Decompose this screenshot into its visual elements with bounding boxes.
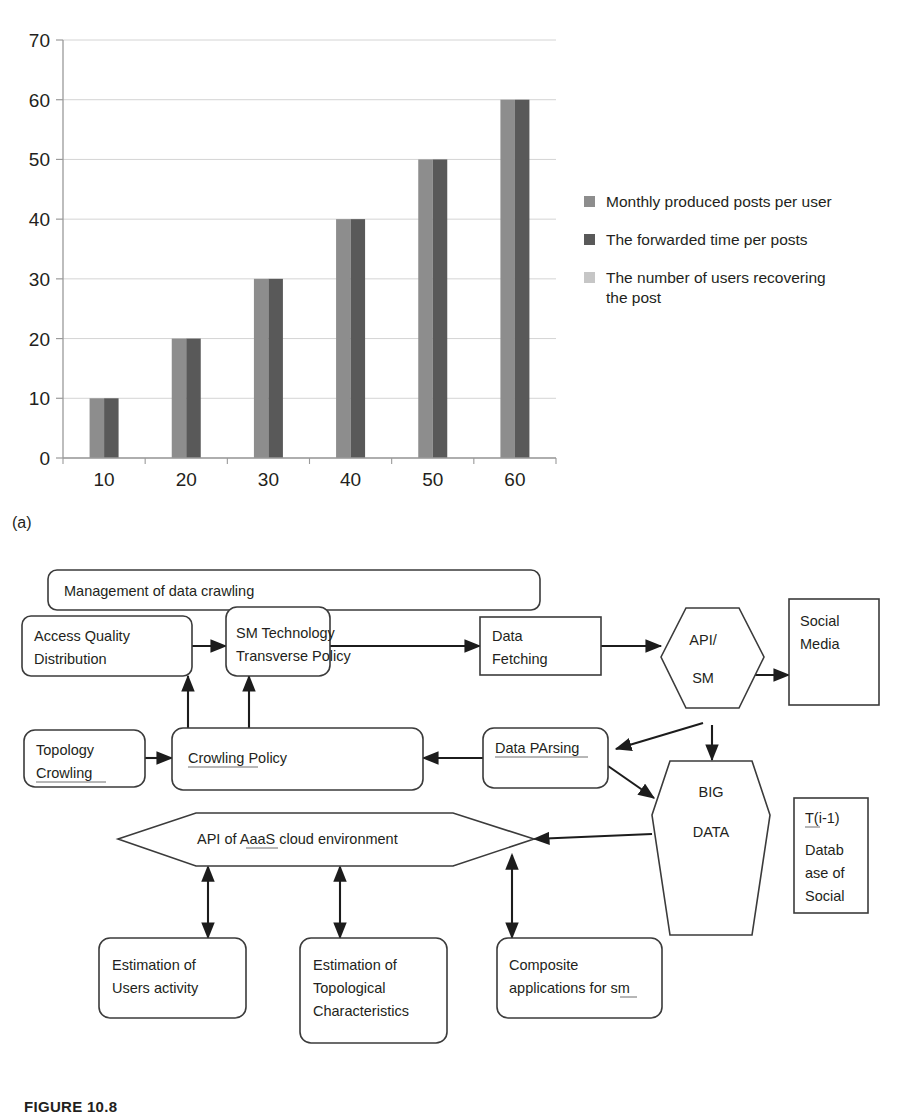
node-topology-line2: Crowling bbox=[36, 765, 92, 781]
chart-bar bbox=[104, 398, 119, 458]
legend-item: Monthly produced posts per user bbox=[584, 192, 884, 212]
y-axis-tick-label: 50 bbox=[29, 149, 50, 170]
y-axis-tick-label: 70 bbox=[29, 30, 50, 51]
node-database-line4: Social bbox=[805, 888, 845, 904]
legend-item-label: The number of users recovering the post bbox=[606, 268, 851, 308]
node-estimation-topological-line3: Characteristics bbox=[313, 1003, 409, 1019]
connector-parsing-to-bigdata bbox=[608, 766, 654, 798]
chart-bar bbox=[351, 219, 366, 458]
flow-diagram-svg: Management of data crawling Access Quali… bbox=[0, 545, 902, 1090]
x-axis-tick-label: 50 bbox=[422, 469, 443, 490]
node-database-line2: Datab bbox=[805, 842, 844, 858]
chart-y-axis: 010203040506070 bbox=[29, 30, 63, 469]
node-estimation-topological-line2: Topological bbox=[313, 980, 386, 996]
node-aaas-api-label: API of AaaS cloud environment bbox=[197, 831, 398, 847]
chart-bar bbox=[186, 339, 201, 458]
y-axis-tick-label: 20 bbox=[29, 329, 50, 350]
connector-bigdata-to-aaasapi bbox=[534, 834, 652, 839]
node-social-media-line1: Social bbox=[800, 613, 840, 629]
node-big-data-line2: DATA bbox=[693, 824, 730, 840]
node-access-quality-box bbox=[22, 616, 192, 676]
chart-bar bbox=[433, 159, 448, 458]
y-axis-tick-label: 10 bbox=[29, 388, 50, 409]
y-axis-tick-label: 30 bbox=[29, 269, 50, 290]
chart-bar bbox=[418, 159, 433, 458]
node-composite-apps-line1: Composite bbox=[509, 957, 578, 973]
node-crowling-policy-label: Crowling Policy bbox=[188, 750, 288, 766]
y-axis-tick-label: 60 bbox=[29, 90, 50, 111]
node-data-parsing-label: Data PArsing bbox=[495, 740, 579, 756]
node-access-quality-line2: Distribution bbox=[34, 651, 107, 667]
chart-bar bbox=[172, 339, 187, 458]
node-sm-technology-line2: Transverse Policy bbox=[236, 648, 351, 664]
flow-diagram-panel: Management of data crawling Access Quali… bbox=[0, 545, 902, 1090]
connector-apism-to-parsing bbox=[616, 723, 703, 749]
chart-legend: Monthly produced posts per user The forw… bbox=[584, 192, 884, 326]
chart-gridlines bbox=[63, 40, 556, 458]
figure-caption: FIGURE 10.8 bbox=[24, 1098, 117, 1115]
x-axis-tick-label: 10 bbox=[94, 469, 115, 490]
y-axis-tick-label: 0 bbox=[39, 448, 50, 469]
chart-bar bbox=[90, 398, 105, 458]
legend-swatch-icon bbox=[584, 272, 595, 283]
chart-x-axis: 102030405060 bbox=[63, 458, 556, 490]
panel-a-label: (a) bbox=[12, 514, 32, 532]
legend-item-label: Monthly produced posts per user bbox=[606, 192, 832, 212]
x-axis-tick-label: 40 bbox=[340, 469, 361, 490]
node-database-line1: T(i-1) bbox=[805, 810, 840, 826]
node-composite-apps-box bbox=[497, 938, 662, 1018]
node-api-sm-line1: API/ bbox=[689, 632, 717, 648]
legend-item: The forwarded time per posts bbox=[584, 230, 884, 250]
node-sm-technology-line1: SM Technology bbox=[236, 625, 336, 641]
node-api-sm-hexagon bbox=[661, 608, 764, 708]
node-estimation-users-line1: Estimation of bbox=[112, 957, 197, 973]
chart-bar bbox=[515, 100, 530, 458]
legend-swatch-icon bbox=[584, 196, 595, 207]
node-data-fetching-line2: Fetching bbox=[492, 651, 548, 667]
x-axis-tick-label: 20 bbox=[176, 469, 197, 490]
node-topology-line1: Topology bbox=[36, 742, 95, 758]
legend-item: The number of users recovering the post bbox=[584, 268, 884, 308]
chart-bar bbox=[254, 279, 269, 458]
node-api-sm-line2: SM bbox=[692, 670, 714, 686]
node-management-label: Management of data crawling bbox=[64, 583, 254, 599]
node-sm-technology-box bbox=[226, 607, 330, 676]
node-data-parsing-box bbox=[483, 728, 608, 788]
x-axis-tick-label: 30 bbox=[258, 469, 279, 490]
node-estimation-users-line2: Users activity bbox=[112, 980, 199, 996]
chart-bar bbox=[500, 100, 514, 458]
chart-bar bbox=[268, 279, 283, 458]
node-data-fetching-line1: Data bbox=[492, 628, 524, 644]
legend-item-label: The forwarded time per posts bbox=[606, 230, 808, 250]
chart-bar bbox=[336, 219, 351, 458]
node-access-quality-line1: Access Quality bbox=[34, 628, 131, 644]
x-axis-tick-label: 60 bbox=[504, 469, 525, 490]
node-database-line3: ase of bbox=[805, 865, 845, 881]
bar-chart-panel: 010203040506070 102030405060 Monthly pro… bbox=[0, 0, 902, 545]
node-composite-apps-line2: applications for sm bbox=[509, 980, 630, 996]
y-axis-tick-label: 40 bbox=[29, 209, 50, 230]
node-social-media-line2: Media bbox=[800, 636, 840, 652]
legend-swatch-icon bbox=[584, 234, 595, 245]
node-estimation-users-box bbox=[99, 938, 246, 1018]
node-big-data-line1: BIG bbox=[699, 784, 724, 800]
node-estimation-topological-line1: Estimation of bbox=[313, 957, 398, 973]
